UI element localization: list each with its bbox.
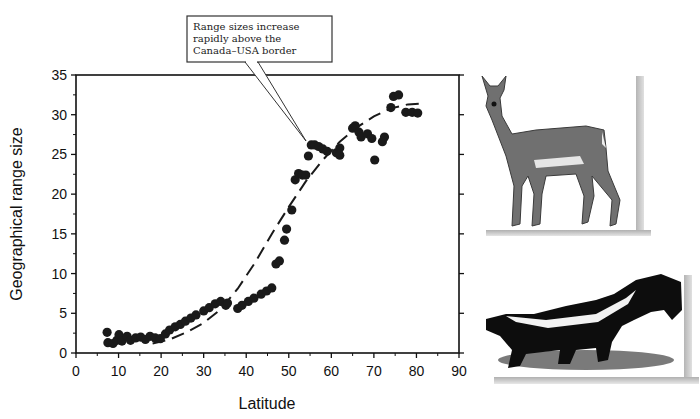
scatter-chart: 05101520253035 0102030405060708090 Latit… <box>0 0 470 419</box>
data-point <box>223 298 232 307</box>
data-point <box>267 283 276 292</box>
data-point <box>280 236 289 245</box>
y-tick-label: 25 <box>51 146 67 162</box>
x-tick-label: 60 <box>324 363 340 379</box>
x-tick-label: 0 <box>72 363 80 379</box>
x-axis-title: Latitude <box>239 395 296 412</box>
callout-line-3: Canada–USA border <box>193 45 297 56</box>
data-point <box>301 171 310 180</box>
data-point <box>287 205 296 214</box>
x-tick-label: 20 <box>153 363 169 379</box>
skunk-icon <box>486 270 692 380</box>
x-tick-label: 30 <box>196 363 212 379</box>
skunk-image-panel <box>486 270 692 380</box>
data-point <box>394 90 403 99</box>
data-point <box>282 225 291 234</box>
data-point <box>386 103 395 112</box>
y-axis-title: Geographical range size <box>8 127 25 301</box>
y-tick-label: 15 <box>51 226 67 242</box>
y-tick-label: 35 <box>51 67 67 83</box>
data-point <box>367 134 376 143</box>
x-tick-label: 40 <box>238 363 254 379</box>
y-tick-label: 5 <box>59 305 67 321</box>
x-tick-label: 50 <box>281 363 297 379</box>
data-point <box>275 256 284 265</box>
x-tick-label: 70 <box>366 363 382 379</box>
data-point <box>103 328 112 337</box>
deer-icon <box>476 76 644 236</box>
x-tick-label: 10 <box>111 363 127 379</box>
data-point <box>335 151 344 160</box>
y-tick-label: 30 <box>51 107 67 123</box>
x-axis: 0102030405060708090 <box>72 353 467 379</box>
data-points <box>103 90 423 348</box>
data-point <box>370 155 379 164</box>
y-tick-label: 10 <box>51 266 67 282</box>
plot-area <box>76 75 459 353</box>
data-point <box>323 147 332 156</box>
y-tick-label: 0 <box>59 345 67 361</box>
callout-line-2: rapidly above the <box>193 33 281 44</box>
deer-image-panel <box>476 76 644 236</box>
annotation-callout: Range sizes increase rapidly above the C… <box>187 16 332 141</box>
x-tick-label: 90 <box>451 363 467 379</box>
data-point <box>413 109 422 118</box>
x-tick-label: 80 <box>409 363 425 379</box>
y-tick-label: 20 <box>51 186 67 202</box>
data-point <box>304 151 313 160</box>
data-point <box>380 132 389 141</box>
callout-line-1: Range sizes increase <box>193 21 300 32</box>
